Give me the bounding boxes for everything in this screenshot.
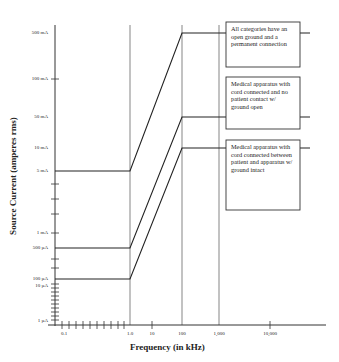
y-tick-label: 500 mA xyxy=(0,30,48,35)
x-axis-title: Frequency (in kHz) xyxy=(130,342,205,352)
x-tick-label: 100 xyxy=(167,331,197,336)
x-tick-label: 1,000 xyxy=(204,331,234,336)
y-tick-label: 1 µA xyxy=(0,318,48,323)
note-ground-intact: Medical apparatus with cord connected be… xyxy=(227,141,299,175)
x-tick-label: 10 xyxy=(137,331,167,336)
x-tick-label: 0.1 xyxy=(49,331,79,336)
note-no-patient-contact: Medical apparatus with cord connected an… xyxy=(227,78,299,112)
y-tick-label: 10 µA xyxy=(0,283,48,288)
y-axis-title: Source Current (amperes rms) xyxy=(8,101,18,251)
x-tick-label: 10,000 xyxy=(255,331,285,336)
note-open-ground-permanent: All categories have an open ground and a… xyxy=(227,23,299,50)
y-tick-label: 100 mA xyxy=(0,76,48,81)
chart-canvas xyxy=(0,0,339,362)
y-tick-label: 100 µA xyxy=(0,276,48,281)
